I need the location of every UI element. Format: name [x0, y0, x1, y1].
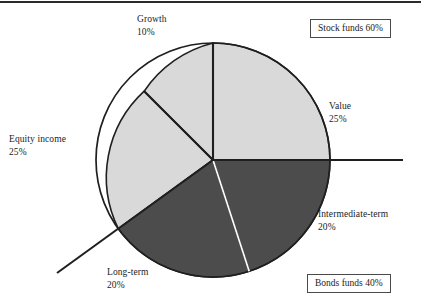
slice-label-growth-percent: 10% [137, 26, 167, 39]
pie-chart-figure: Growth 10% Value 25% Equity income 25% I… [0, 0, 421, 308]
slice-label-growth-name: Growth [137, 14, 167, 24]
slice-label-value-name: Value [329, 101, 351, 111]
slice-label-long-term: Long-term 20% [107, 266, 149, 291]
slice-label-long-term-percent: 20% [107, 279, 149, 292]
slice-label-value-percent: 25% [329, 113, 351, 126]
slice-label-intermediate-term: Intermediate-term 20% [318, 208, 388, 233]
bonds-funds-callout: Bonds funds 40% [307, 274, 391, 293]
slice-label-intermediate-term-name: Intermediate-term [318, 209, 388, 219]
slice-label-equity-income-percent: 25% [9, 146, 66, 159]
stock-funds-callout: Stock funds 60% [310, 19, 391, 38]
slice-label-value: Value 25% [329, 100, 351, 125]
slice-label-growth: Growth 10% [137, 13, 167, 38]
slice-label-equity-income: Equity income 25% [9, 133, 66, 158]
slice-label-long-term-name: Long-term [107, 267, 149, 277]
pie-slice-value [213, 43, 330, 160]
slice-label-equity-income-name: Equity income [9, 134, 66, 144]
slice-label-intermediate-term-percent: 20% [318, 221, 388, 234]
